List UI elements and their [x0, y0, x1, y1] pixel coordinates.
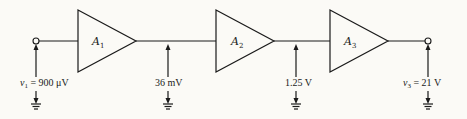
stage1-voltage-label: 36 mV: [155, 77, 183, 88]
output-terminal: [425, 38, 431, 44]
probe-input: v1 = 900 μV: [20, 44, 69, 109]
probe-stage1: 36 mV: [155, 44, 183, 109]
arrow-down-icon: [34, 98, 39, 104]
amplifier-a2: A2: [216, 10, 274, 72]
probe-stage2: 1.25 V: [285, 44, 313, 109]
input-voltage-label: v1 = 900 μV: [20, 77, 69, 90]
amplifier-a3-label: A3: [343, 35, 356, 50]
input-terminal: [33, 38, 39, 44]
amplifier-a1: A1: [78, 10, 136, 72]
output-voltage-label: v3 = 21 V: [403, 77, 442, 90]
amplifier-a3: A3: [330, 10, 388, 72]
amplifier-triangle-icon: [216, 10, 274, 72]
amplifier-a1-label: A1: [91, 35, 104, 50]
amplifier-triangle-icon: [330, 10, 388, 72]
arrow-up-icon: [294, 44, 299, 50]
arrow-up-icon: [34, 44, 39, 50]
ground-icon: [31, 104, 41, 109]
arrow-down-icon: [426, 98, 431, 104]
ground-icon: [163, 104, 173, 109]
probe-output: v3 = 21 V: [403, 44, 442, 109]
amplifier-a2-label: A2: [230, 35, 243, 50]
amplifier-triangle-icon: [78, 10, 136, 72]
ground-icon: [423, 104, 433, 109]
arrow-up-icon: [426, 44, 431, 50]
arrow-down-icon: [294, 98, 299, 104]
ground-icon: [291, 104, 301, 109]
arrow-up-icon: [166, 44, 171, 50]
arrow-down-icon: [166, 98, 171, 104]
amplifier-cascade-diagram: A1 A2 A3 v1 = 900 μV 36 mV 1.25 V: [0, 0, 467, 119]
stage2-voltage-label: 1.25 V: [285, 77, 313, 88]
